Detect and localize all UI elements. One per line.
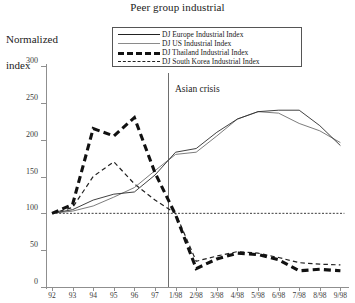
chart-container: Peer group industrial Normalized index D… [0,0,355,303]
chart-series-layer [0,0,355,303]
series-line-us [52,112,340,214]
series-line-europe [52,110,340,213]
series-line-thailand [52,118,340,271]
